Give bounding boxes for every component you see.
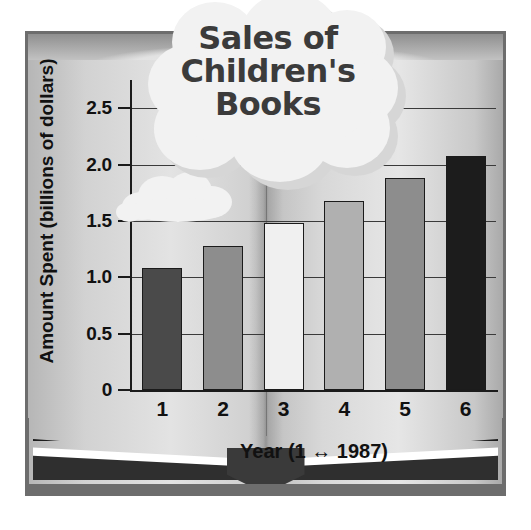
book-side-left — [25, 418, 29, 493]
y-tick-label: 1.0 — [52, 267, 112, 286]
y-tick-label: 2.5 — [52, 98, 112, 117]
bar — [264, 223, 304, 390]
bar — [446, 156, 486, 390]
x-tick-label: 5 — [381, 398, 429, 419]
chart-title-line-1: Sales of — [150, 22, 386, 55]
y-tick-label: 0 — [52, 380, 112, 399]
x-tick-label: 4 — [320, 398, 368, 419]
book-side-right — [502, 418, 506, 493]
y-tick-label: 0.5 — [52, 324, 112, 343]
chart-page: 00.51.01.52.02.5 123456 Amount Spent (bi… — [0, 0, 531, 530]
bar — [203, 246, 243, 390]
bar — [142, 268, 182, 390]
x-tick-label: 2 — [199, 398, 247, 419]
y-axis-title: Amount Spent (billions of dollars) — [36, 56, 58, 366]
book-base-bar — [25, 484, 506, 493]
chart-title: Sales of Children's Books — [150, 22, 386, 121]
x-axis-line — [130, 390, 498, 392]
bar — [385, 178, 425, 390]
chart-title-line-3: Books — [150, 88, 386, 121]
y-tick-label: 2.0 — [52, 155, 112, 174]
x-tick-label: 1 — [138, 398, 186, 419]
chart-title-line-2: Children's — [150, 55, 386, 88]
x-tick-label: 6 — [442, 398, 490, 419]
y-tick-label: 1.5 — [52, 211, 112, 230]
x-tick-label: 3 — [260, 398, 308, 419]
x-axis-title: Year (1 ↔ 1987) — [130, 440, 498, 463]
bar — [324, 201, 364, 390]
y-axis-line — [130, 80, 132, 392]
